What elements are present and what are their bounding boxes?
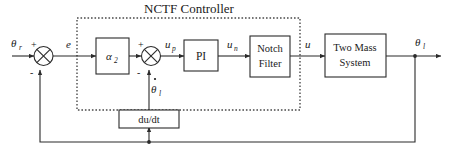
block-notch-filter: Notch Filter — [250, 36, 290, 77]
sum1-sign-left: + — [31, 39, 37, 50]
up-label-subscript: p — [171, 44, 176, 53]
control-input-label: u — [305, 38, 311, 50]
reference-label-subscript: r — [19, 43, 22, 52]
error-label: e — [66, 38, 71, 50]
summing-junction-1: + - — [30, 39, 53, 78]
alpha2-box — [96, 38, 129, 74]
velocity-dot-accent — [154, 78, 156, 80]
sum2-sign-left: + — [138, 39, 144, 50]
sum2-sign-bottom: - — [137, 67, 140, 78]
control-block-diagram: NCTF Controller + - — [0, 0, 453, 155]
two-mass-system-box — [325, 34, 386, 77]
block-pi: PI — [184, 40, 218, 71]
pi-label: PI — [196, 50, 206, 62]
signal-label-output-angle: θ l — [415, 36, 425, 51]
up-label-main: u — [165, 38, 171, 50]
un-label-subscript: n — [234, 44, 238, 53]
notch-filter-label-line1: Notch — [257, 43, 283, 54]
output-velocity-label-main: θ — [151, 83, 157, 95]
signal-label-up: u p — [165, 38, 176, 53]
signal-label-un: u n — [227, 38, 238, 53]
block-alpha2: α 2 — [96, 38, 129, 74]
signal-label-output-velocity: θ l — [151, 78, 161, 98]
derivative-tap-node — [147, 140, 151, 144]
diagram-title: NCTF Controller — [144, 1, 235, 16]
two-mass-system-label-line1: Two Mass — [333, 42, 376, 53]
block-derivative: du/dt — [119, 110, 179, 128]
block-two-mass-system: Two Mass System — [325, 34, 386, 77]
output-angle-label-main: θ — [415, 36, 421, 48]
reference-label-main: θ — [11, 37, 17, 49]
diagram-canvas: NCTF Controller + - — [0, 0, 453, 155]
derivative-label: du/dt — [138, 114, 160, 125]
alpha2-label-subscript: 2 — [114, 56, 118, 65]
output-velocity-label-subscript: l — [159, 89, 161, 98]
signal-label-reference: θ r — [11, 37, 22, 52]
un-label-main: u — [227, 38, 233, 50]
output-angle-label-subscript: l — [423, 42, 425, 51]
notch-filter-label-line2: Filter — [259, 58, 282, 69]
two-mass-system-label-line2: System — [340, 57, 371, 68]
alpha2-label: α — [106, 50, 112, 62]
sum1-sign-bottom: - — [30, 67, 33, 78]
